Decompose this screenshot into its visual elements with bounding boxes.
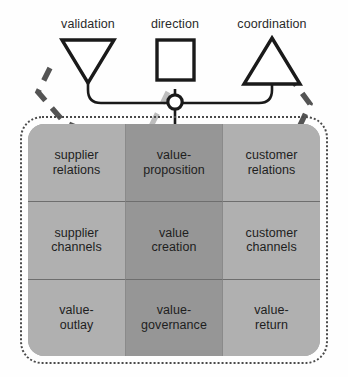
cell-line-1: customer [246,148,298,163]
shape-validation-triangle-down[interactable] [62,40,114,83]
diagram-canvas: validation direction coordination suppli… [0,0,348,377]
label-coordination: coordination [237,18,306,31]
shape-direction-square[interactable] [157,40,194,80]
label-direction: direction [151,18,199,31]
cell-supplier-channels[interactable]: supplierchannels [28,201,125,278]
cell-line-1: value- [59,303,93,318]
cell-line-2: proposition [143,163,205,178]
cell-value-return[interactable]: value-return [223,279,320,356]
cell-line-1: customer [246,226,298,241]
cell-line-2: governance [141,318,207,333]
cell-value-proposition[interactable]: value-proposition [125,124,223,201]
cell-line-2: relations [246,163,298,178]
cell-line-2: outlay [59,318,93,333]
cell-value-outlay[interactable]: value-outlay [28,279,125,356]
cell-line-1: value- [254,303,288,318]
cell-line-1: value- [143,148,205,163]
value-grid: supplierrelations value-proposition cust… [28,124,320,356]
cell-line-2: creation [152,240,197,255]
cell-value-governance[interactable]: value-governance [125,279,223,356]
cell-line-2: channels [51,240,101,255]
cell-line-2: channels [246,240,298,255]
cell-customer-relations[interactable]: customerrelations [223,124,320,201]
cell-value-creation[interactable]: valuecreation [125,201,223,278]
connector-validation-to-junction [88,83,168,103]
cell-line-1: value- [141,303,207,318]
cell-line-2: relations [53,163,101,178]
cell-line-2: return [254,318,288,333]
connector-coordination-to-junction [182,84,272,103]
cell-line-1: value [152,226,197,241]
shape-coordination-triangle-up[interactable] [244,38,300,84]
cell-supplier-relations[interactable]: supplierrelations [28,124,125,201]
junction-node[interactable] [168,95,182,109]
label-validation: validation [61,18,115,31]
cell-line-1: supplier [53,148,101,163]
cell-line-1: supplier [51,226,101,241]
cell-customer-channels[interactable]: customerchannels [223,201,320,278]
